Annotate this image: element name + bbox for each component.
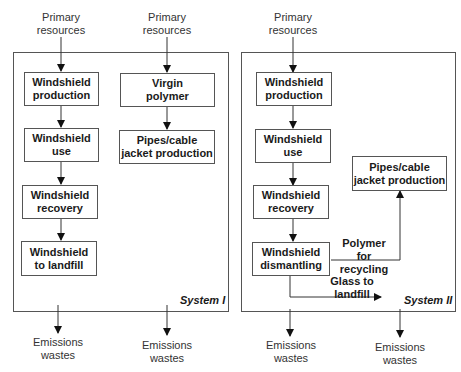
box-line: recovery: [262, 202, 321, 215]
label-line: Emissions: [18, 336, 98, 349]
emissions-wastes-label-4: Emissions wastes: [360, 341, 440, 367]
polymer-for-recycling-label: Polymer for recycling: [334, 237, 394, 276]
windshield-production-box-s2: Windshieldproduction: [256, 72, 332, 106]
label-line: Emissions: [360, 341, 440, 354]
box-line: Virgin: [146, 77, 189, 90]
system-1-label: System I: [180, 294, 225, 306]
windshield-recovery-box-s2: Windshieldrecovery: [253, 185, 329, 219]
label-line: resources: [253, 24, 333, 37]
box-line: polymer: [146, 90, 189, 103]
label-line: landfill: [327, 288, 377, 301]
label-line: wastes: [251, 352, 331, 365]
box-line: use: [264, 146, 323, 159]
box-line: Windshield: [32, 132, 91, 145]
label-line: wastes: [360, 354, 440, 367]
system-2-label: System II: [404, 294, 452, 306]
box-line: use: [32, 145, 91, 158]
label-line: Primary: [253, 11, 333, 24]
box-line: jacket production: [121, 147, 213, 160]
virgin-polymer-box: Virginpolymer: [120, 73, 215, 107]
label-line: wastes: [18, 349, 98, 362]
primary-resources-label-1: Primary resources: [21, 11, 101, 37]
label-line: Emissions: [251, 339, 331, 352]
label-line: Glass to: [327, 275, 377, 288]
windshield-recovery-box-s1: Windshieldrecovery: [22, 185, 98, 219]
box-line: Windshield: [265, 76, 324, 89]
windshield-landfill-box-s1: Windshieldto landfill: [21, 241, 97, 276]
box-line: to landfill: [30, 259, 89, 272]
pipes-cable-box-s2: Pipes/cablejacket production: [352, 156, 447, 191]
box-line: Windshield: [32, 76, 91, 89]
label-line: Primary: [127, 11, 207, 24]
label-line: Emissions: [127, 339, 207, 352]
emissions-wastes-label-1: Emissions wastes: [18, 336, 98, 362]
primary-resources-label-2: Primary resources: [127, 11, 207, 37]
label-line: wastes: [127, 352, 207, 365]
glass-to-landfill-label: Glass to landfill: [327, 275, 377, 301]
box-line: dismantling: [260, 259, 322, 272]
windshield-use-box-s1: Windshielduse: [24, 128, 99, 162]
windshield-production-box-s1: Windshieldproduction: [24, 72, 99, 106]
box-line: Windshield: [260, 246, 322, 259]
label-line: Primary: [21, 11, 101, 24]
label-line: Polymer for: [334, 237, 394, 263]
box-line: recovery: [31, 202, 90, 215]
primary-resources-label-3: Primary resources: [253, 11, 333, 37]
box-line: jacket production: [354, 174, 446, 187]
box-line: production: [265, 89, 324, 102]
box-line: Pipes/cable: [354, 161, 446, 174]
box-line: Windshield: [30, 246, 89, 259]
emissions-wastes-label-3: Emissions wastes: [251, 339, 331, 365]
windshield-use-box-s2: Windshielduse: [255, 129, 331, 163]
box-line: Windshield: [31, 189, 90, 202]
box-line: Windshield: [262, 189, 321, 202]
box-line: Pipes/cable: [121, 134, 213, 147]
emissions-wastes-label-2: Emissions wastes: [127, 339, 207, 365]
box-line: production: [32, 89, 91, 102]
label-line: resources: [127, 24, 207, 37]
label-line: resources: [21, 24, 101, 37]
box-line: Windshield: [264, 133, 323, 146]
pipes-cable-box-s1: Pipes/cablejacket production: [119, 130, 215, 164]
windshield-dismantling-box: Windshielddismantling: [252, 242, 330, 276]
